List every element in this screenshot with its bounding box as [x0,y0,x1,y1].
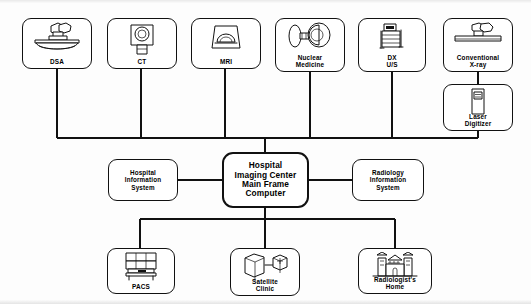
node-conventional-xray[interactable]: Conventional X-ray [443,18,513,72]
node-label-mri: MRI [192,58,260,65]
x-ray-table-icon [444,22,512,48]
node-nuclear-medicine[interactable]: Nuclear Medicine [275,18,345,72]
laser-digitizer-icon [444,88,512,115]
mri-magnet-icon [192,22,260,54]
node-ct[interactable]: CT [107,18,177,69]
diagram-canvas: DSA CT [0,0,531,304]
main-frame-label: Hospital Imaging Center Main Frame Compu… [235,161,297,199]
node-label-laser-digitizer: Laser Digitizer [444,113,512,127]
node-dx-us[interactable]: DX U/S [358,18,426,72]
node-satellite-clinic[interactable]: Satellite Clinic [230,248,300,296]
node-laser-digitizer[interactable]: Laser Digitizer [443,84,513,131]
node-main-frame-computer[interactable]: Hospital Imaging Center Main Frame Compu… [222,152,309,208]
node-dsa[interactable]: DSA [22,18,92,69]
node-label-dx-us: DX U/S [359,54,425,68]
dsa-angiography-table-icon [23,22,91,54]
node-label-his: Hospital Information System [109,169,177,191]
node-label-pacs: PACS [108,283,174,290]
ultrasound-cart-icon [359,22,425,56]
node-radiologists-home[interactable]: Radiologist's Home [358,248,432,294]
node-label-satellite-clinic: Satellite Clinic [231,278,299,292]
node-radiology-information-system[interactable]: Radiology Information System [352,159,424,201]
house-icon [359,252,431,278]
ct-gantry-icon [108,22,176,55]
node-label-ct: CT [108,58,176,65]
node-label-dsa: DSA [23,58,91,65]
node-label-nuclear-medicine: Nuclear Medicine [276,54,344,68]
node-label-ris: Radiology Information System [353,169,423,191]
pacs-display-workstation-icon [108,252,174,282]
gamma-camera-icon [276,22,344,54]
node-label-radiologists-home: Radiologist's Home [359,276,431,290]
node-hospital-information-system[interactable]: Hospital Information System [108,159,178,201]
node-mri[interactable]: MRI [191,18,261,69]
node-label-conventional-xray: Conventional X-ray [444,54,512,68]
node-pacs[interactable]: PACS [107,248,175,294]
